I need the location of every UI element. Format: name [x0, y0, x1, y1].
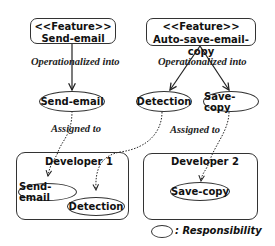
assigned-label-left: Assigned to: [51, 123, 101, 134]
feature-stereotype: <<Feature>>: [147, 21, 255, 33]
developer-name-1: Developer 1: [45, 156, 113, 167]
developer-2-responsibility-save-copy: Save-copy: [170, 182, 230, 201]
feature-stereotype: <<Feature>>: [31, 21, 115, 33]
operationalized-label-right: Operationalized into: [158, 56, 246, 67]
developer-1-responsibility-send-email: Send-email: [18, 183, 77, 201]
legend-label: : Responsibility: [175, 225, 262, 236]
responsibility-save-copy: Save-copy: [203, 91, 259, 112]
operationalized-label-left: Operationalized into: [31, 56, 119, 67]
legend-ellipse-icon: [151, 225, 173, 238]
developer-1-responsibility-detection: Detection: [67, 197, 125, 216]
responsibility-send-email: Send-email: [39, 91, 105, 112]
diagram-canvas: <<Feature>> Send-email <<Feature>> Auto-…: [0, 0, 275, 246]
developer-name-2: Developer 2: [171, 156, 239, 167]
feature-box-send-email: <<Feature>> Send-email: [30, 18, 116, 44]
assigned-label-right: Assigned to: [170, 124, 220, 135]
feature-name: Send-email: [31, 33, 115, 45]
feature-name: Auto-save-email-copy: [147, 34, 255, 58]
feature-box-auto-save-email-copy: <<Feature>> Auto-save-email-copy: [146, 18, 256, 46]
responsibility-detection: Detection: [136, 91, 192, 112]
